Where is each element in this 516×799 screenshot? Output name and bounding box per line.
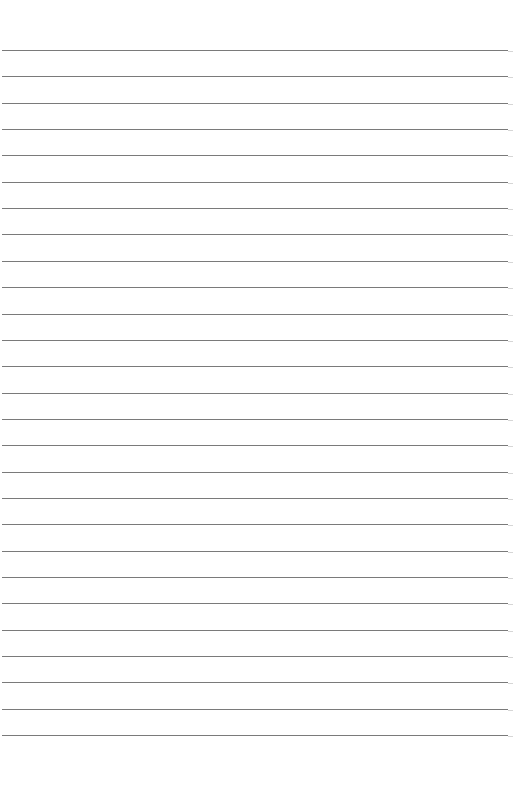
ruled-line [2,735,508,736]
ruled-line [2,577,508,578]
line-edge-fade [508,552,513,553]
ruled-line [2,340,508,341]
line-edge-fade [508,130,513,131]
line-edge-fade [508,446,513,447]
line-edge-fade [508,104,513,105]
ruled-line [2,76,508,77]
ruled-line [2,551,508,552]
line-edge-fade [508,683,513,684]
ruled-line [2,366,508,367]
lined-paper-sheet [0,0,516,799]
line-edge-fade [508,156,513,157]
ruled-line [2,261,508,262]
line-edge-fade [508,235,513,236]
ruled-line [2,314,508,315]
line-edge-fade [508,710,513,711]
ruled-line [2,287,508,288]
ruled-line [2,498,508,499]
ruled-line [2,129,508,130]
line-edge-fade [508,288,513,289]
line-edge-fade [508,499,513,500]
ruled-line [2,630,508,631]
ruled-line [2,419,508,420]
ruled-line [2,155,508,156]
ruled-line [2,445,508,446]
ruled-line [2,682,508,683]
line-edge-fade [508,341,513,342]
line-edge-fade [508,578,513,579]
line-edge-fade [508,394,513,395]
ruled-line [2,208,508,209]
line-edge-fade [508,525,513,526]
line-edge-fade [508,209,513,210]
line-edge-fade [508,262,513,263]
line-edge-fade [508,77,513,78]
ruled-line [2,234,508,235]
ruled-line [2,50,508,51]
ruled-line [2,393,508,394]
line-edge-fade [508,657,513,658]
line-edge-fade [508,420,513,421]
ruled-line [2,524,508,525]
line-edge-fade [508,604,513,605]
line-edge-fade [508,51,513,52]
line-edge-fade [508,631,513,632]
ruled-line [2,182,508,183]
line-edge-fade [508,473,513,474]
ruled-line [2,656,508,657]
ruled-line [2,603,508,604]
ruled-line [2,709,508,710]
ruled-line [2,103,508,104]
ruled-line [2,472,508,473]
line-edge-fade [508,367,513,368]
line-edge-fade [508,183,513,184]
line-edge-fade [508,736,513,737]
line-edge-fade [508,315,513,316]
